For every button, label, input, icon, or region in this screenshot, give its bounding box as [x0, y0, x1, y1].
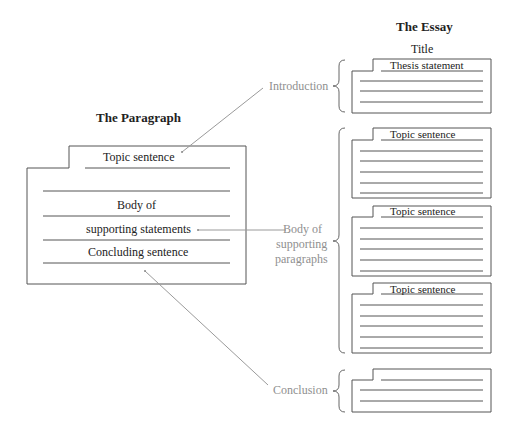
essay-heading: The Essay: [396, 19, 453, 35]
introduction-brace-icon: [333, 60, 345, 112]
body-1-topic-sentence: Topic sentence: [390, 128, 456, 140]
body-2-topic-sentence: Topic sentence: [390, 205, 456, 217]
paragraph-heading: The Paragraph: [96, 110, 181, 126]
paragraph-body-line-1: Body of: [117, 198, 156, 213]
paragraph-box: [27, 146, 246, 284]
introduction-label: Introduction: [269, 79, 328, 94]
connector-dot: [197, 229, 199, 231]
brace-icons: [333, 60, 345, 412]
conclusion-brace-icon: [333, 370, 345, 412]
connector-dot: [181, 151, 183, 153]
paragraph-body-line-2: supporting statements: [86, 222, 191, 237]
conclusion-label: Conclusion: [273, 383, 328, 398]
intro-thesis-statement: Thesis statement: [390, 59, 464, 71]
paragraph-concluding-sentence: Concluding sentence: [88, 245, 188, 260]
body-label-line-3: paragraphs: [275, 252, 328, 267]
body-label-line-2: supporting: [276, 237, 327, 252]
conclusion-box: [352, 369, 491, 412]
conclusion-to-concluding-connector: [145, 271, 268, 385]
essay-title: Title: [411, 42, 433, 57]
body-3-topic-sentence: Topic sentence: [390, 283, 456, 295]
connector-dot: [144, 270, 146, 272]
paragraph-topic-sentence: Topic sentence: [103, 150, 174, 165]
body-brace-icon: [333, 128, 345, 353]
intro-to-topic-connector: [182, 88, 263, 152]
body-label-line-1: Body of: [283, 222, 322, 237]
